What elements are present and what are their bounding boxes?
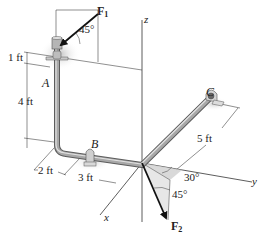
y-axis-label: y bbox=[252, 176, 257, 187]
force-f1-label: F1 bbox=[97, 5, 108, 19]
dim-line bbox=[222, 108, 238, 128]
x-axis bbox=[100, 163, 142, 215]
dim-3ft-label: 3 ft bbox=[78, 172, 93, 183]
dim-1ft-label: 1 ft bbox=[8, 52, 23, 63]
pipe-body bbox=[57, 48, 212, 165]
point-b-label: B bbox=[91, 138, 98, 150]
f2-angle-45-label: 45° bbox=[172, 189, 187, 200]
force-f2-label: F2 bbox=[171, 220, 182, 234]
point-a-label: A bbox=[42, 77, 49, 89]
dim-4ft-label: 4 ft bbox=[18, 96, 33, 107]
z-axis-label: z bbox=[144, 14, 148, 25]
f1-angle-label: 45° bbox=[79, 24, 94, 35]
dim-5ft-label: 5 ft bbox=[197, 133, 212, 144]
pipe-assembly-figure: F1 45° z y x A B C 1 ft 4 ft 2 ft 3 ft 5… bbox=[0, 0, 274, 248]
f2-angle-30-label: 30° bbox=[184, 172, 199, 183]
construction-line bbox=[24, 52, 142, 70]
dim-line bbox=[58, 172, 66, 175]
dim-2ft-label: 2 ft bbox=[38, 165, 53, 176]
pipe-highlight bbox=[56, 48, 211, 164]
dim-tick bbox=[24, 138, 54, 142]
pipe-outline bbox=[57, 48, 212, 165]
dim-line bbox=[176, 145, 206, 170]
point-c-label: C bbox=[206, 86, 214, 98]
dim-line bbox=[99, 180, 116, 183]
x-axis-label: x bbox=[104, 212, 109, 223]
bearing-b bbox=[84, 149, 96, 166]
